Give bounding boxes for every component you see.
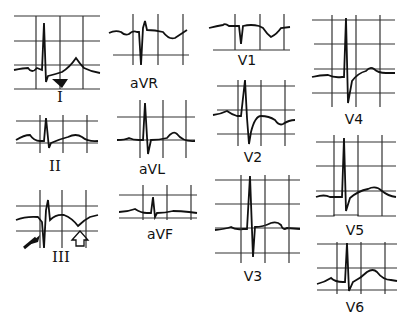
lead-II-panel: II: [10, 115, 100, 175]
lead-V2-label: V2: [241, 150, 265, 164]
lead-I-waveform: [10, 10, 100, 90]
lead-V6-label: V6: [343, 300, 367, 314]
lead-aVL-label: aVL: [135, 162, 169, 176]
lead-V4-waveform: [310, 15, 405, 115]
lead-V3-label: V3: [241, 269, 265, 283]
lead-I-panel: I: [10, 10, 100, 90]
lead-aVL-panel: aVL: [105, 100, 200, 180]
lead-aVR-label: aVR: [127, 76, 161, 90]
lead-V5-panel: V5: [310, 135, 405, 235]
lead-V2-panel: V2: [205, 80, 300, 175]
lead-II-label: II: [45, 159, 65, 173]
lead-III-label: III: [48, 250, 74, 264]
lead-V1-label: V1: [235, 53, 259, 67]
lead-I-label: I: [50, 90, 70, 104]
lead-V4-panel: V4: [310, 15, 405, 115]
lead-V3-panel: V3: [205, 175, 300, 285]
lead-V5-waveform: [310, 135, 405, 235]
lead-III-panel: III: [10, 190, 100, 265]
lead-V5-label: V5: [343, 223, 367, 237]
lead-aVR-panel: aVR: [105, 10, 200, 95]
lead-V6-panel: V6: [315, 240, 405, 320]
lead-V4-label: V4: [342, 112, 366, 126]
lead-aVF-panel: aVF: [105, 185, 200, 250]
lead-aVF-label: aVF: [143, 227, 177, 241]
lead-V1-panel: V1: [205, 10, 300, 70]
